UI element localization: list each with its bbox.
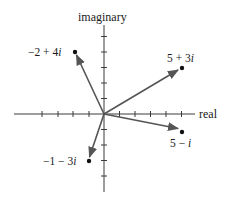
point-5-minus-i [180,130,184,134]
label-5-minus-i: 5 − i [170,137,191,149]
vector-neg2-plus-4i [77,55,105,114]
complex-plane-diagram: real imaginary [0,0,230,202]
vectors [77,55,179,157]
real-axis: real [14,107,218,121]
point-neg1-minus-3i [87,159,91,163]
real-axis-label: real [199,107,218,121]
imaginary-axis: imaginary [78,10,127,192]
vector-5-minus-i [104,114,178,129]
diagram-svg: real imaginary [0,0,230,202]
points [73,50,184,163]
label-neg1-minus-3i: −1 − 3i [43,155,76,167]
point-neg2-plus-4i [73,50,77,54]
label-neg2-plus-4i: −2 + 4i [28,46,61,58]
point-5-plus-3i [180,66,184,70]
vector-neg1-minus-3i [90,114,105,157]
vector-5-plus-3i [104,70,178,114]
imaginary-axis-label: imaginary [78,10,127,24]
label-5-plus-3i: 5 + 3i [167,52,194,64]
